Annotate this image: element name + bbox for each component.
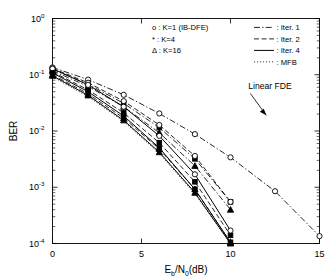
y-tick-label: 10-3 — [29, 180, 45, 192]
ber-performance-chart: 10010-110-210-310-4 051015 Eb/N0(dB)BER … — [0, 0, 335, 280]
annotation-arrowhead — [260, 109, 267, 116]
marker-circle — [121, 104, 126, 109]
marker-circle — [86, 82, 91, 87]
marker-circle — [228, 155, 233, 160]
series-line — [53, 73, 231, 242]
y-tick-label: 10-2 — [29, 124, 45, 136]
x-tick-label: 0 — [50, 249, 55, 259]
marker-circle — [157, 133, 162, 138]
marker-circle — [157, 122, 162, 127]
chart-legend: o : K=1 (IB-DFE)* : K=4Δ : K=16: Iter. 1… — [152, 23, 300, 67]
marker-circle — [157, 111, 162, 116]
legend-line-item: : Iter. 1 — [277, 23, 300, 32]
y-tick-label: 10-1 — [29, 68, 45, 80]
legend-marker-item: * : K=4 — [152, 35, 175, 44]
y-axis-label: BER — [8, 121, 19, 142]
y-tick-label: 100 — [31, 12, 45, 24]
y-tick-label: 10-4 — [29, 237, 45, 249]
series-line — [53, 75, 231, 243]
legend-marker-item: o : K=1 (IB-DFE) — [152, 23, 209, 32]
series-line — [53, 77, 231, 244]
chart-annotations: Linear FDE — [248, 81, 292, 115]
series-line — [53, 76, 231, 244]
data-curves — [53, 67, 320, 243]
marker-circle — [228, 228, 233, 233]
legend-line-item: : MFB — [277, 58, 297, 67]
series-line — [53, 72, 231, 235]
data-markers — [49, 65, 322, 246]
marker-circle — [192, 153, 197, 158]
legend-line-item: : Iter. 2 — [277, 35, 300, 44]
x-tick-label: 15 — [314, 249, 324, 259]
marker-circle — [272, 189, 277, 194]
marker-circle — [121, 92, 126, 97]
series-line — [53, 67, 320, 236]
legend-marker-item: Δ : K=16 — [152, 46, 181, 55]
x-tick-label: 5 — [139, 249, 144, 259]
series-line — [53, 68, 231, 202]
legend-line-item: : Iter. 4 — [277, 46, 300, 55]
annotation-linear-fde: Linear FDE — [248, 81, 292, 91]
marker-circle — [192, 132, 197, 137]
chart-canvas: 10010-110-210-310-4 051015 Eb/N0(dB)BER … — [0, 0, 335, 280]
marker-star — [193, 179, 198, 184]
x-axis-label: Eb/N0(dB) — [164, 264, 207, 277]
x-tick-label: 10 — [225, 249, 235, 259]
marker-circle — [192, 172, 197, 177]
marker-circle — [121, 99, 126, 104]
marker-circle — [317, 234, 322, 239]
axis-labels: Eb/N0(dB)BER — [8, 121, 208, 277]
marker-circle — [228, 199, 233, 204]
marker-star — [228, 233, 233, 238]
marker-star — [157, 140, 162, 145]
